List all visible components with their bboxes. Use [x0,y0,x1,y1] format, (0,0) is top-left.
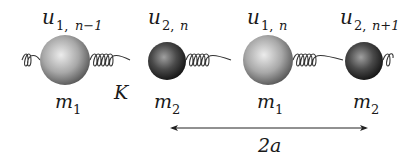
svg-text:m: m [55,90,73,112]
svg-text:2: 2 [172,102,180,117]
mass-ball-m2-right [345,42,383,80]
mass-ball-m2-left [148,42,186,80]
svg-text:2: 2 [371,102,379,117]
spring-constant-label: K [113,81,130,103]
spring-1 [90,54,130,66]
svg-text:m: m [154,90,172,112]
spring-3 [293,54,343,66]
svg-text:1: 1 [73,102,81,117]
diatomic-chain-diagram: u 1, n−1 u 2, n u 1, n u 2, n+1 K m 1 m … [0,0,420,158]
mass-label-m1-right: m 1 [257,90,283,117]
svg-text:n−1: n−1 [75,18,103,33]
svg-text:u: u [42,5,55,29]
svg-text:u: u [340,5,353,29]
mass-ball-m1-left [40,35,90,85]
displacement-label-u2-n: u 2, n [148,5,188,33]
svg-text:1,: 1, [56,18,68,33]
svg-text:2,: 2, [354,18,366,33]
svg-text:m: m [257,90,275,112]
svg-text:n+1: n+1 [372,18,400,33]
mass-label-m1-left: m 1 [55,90,81,117]
lattice-constant-label: 2a [257,134,281,156]
spring-right-end [383,54,393,66]
svg-text:m: m [353,90,371,112]
displacement-label-u1-n: u 1, n [247,5,287,33]
svg-text:2,: 2, [162,18,174,33]
svg-text:u: u [247,5,260,29]
spring-2 [186,54,231,66]
svg-text:u: u [148,5,161,29]
spring-left-end [22,54,40,66]
svg-text:n: n [279,18,287,33]
mass-label-m2-right: m 2 [353,90,379,117]
svg-text:1: 1 [275,102,283,117]
mass-label-m2-left: m 2 [154,90,180,117]
mass-ball-m1-right [243,35,293,85]
displacement-label-u2-n-plus-1: u 2, n+1 [340,5,400,33]
svg-text:1,: 1, [261,18,273,33]
lattice-constant-arrow [170,125,368,131]
svg-text:n: n [180,18,188,33]
displacement-label-u1-n-minus-1: u 1, n−1 [42,5,103,33]
